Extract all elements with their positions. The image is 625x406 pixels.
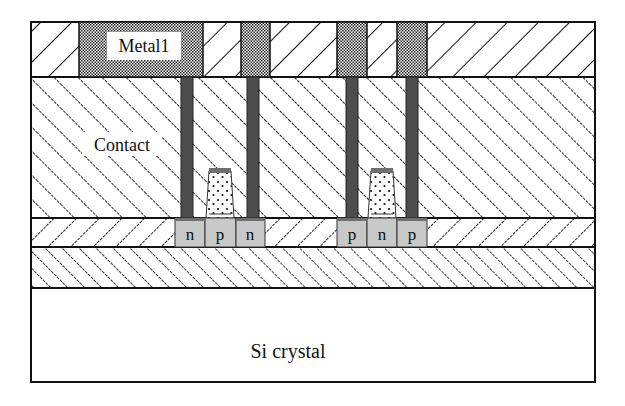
gate-poly (368, 171, 396, 218)
metal1-block (241, 22, 270, 77)
region-label: p (216, 225, 225, 244)
contact-via (346, 77, 358, 218)
gate-poly (206, 171, 234, 218)
contact-via (406, 77, 418, 218)
contact-via (181, 77, 193, 218)
substrate-label: Si crystal (251, 340, 326, 363)
region-label: n (378, 225, 387, 244)
field-oxide-layer (31, 218, 595, 247)
cmos-cross-section-diagram: Metal1 Contact n p n p n p Si cryst (0, 0, 625, 406)
region-label: n (186, 225, 195, 244)
region-label: n (246, 225, 255, 244)
contact-label: Contact (94, 135, 150, 155)
region-label: p (408, 225, 417, 244)
metal1-label: Metal1 (119, 36, 170, 56)
si-substrate (31, 288, 595, 382)
metal1-block (337, 22, 367, 77)
region-label: p (348, 225, 357, 244)
metal1-block (397, 22, 427, 77)
gate-cap (209, 168, 231, 173)
buried-layer (31, 247, 595, 288)
contact-via (247, 77, 259, 218)
gate-cap (371, 168, 393, 173)
